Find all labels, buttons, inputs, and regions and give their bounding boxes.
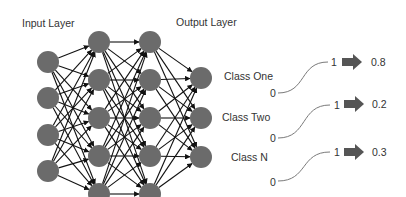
- class-n-label: Class N: [231, 151, 268, 163]
- right-arrow-icon: [344, 144, 364, 160]
- class-n-low-value: 0: [270, 176, 276, 188]
- right-arrow-icon: [344, 96, 364, 112]
- connection-arrow: [53, 90, 93, 162]
- connection-arrow: [53, 72, 94, 147]
- class-n-probability: 0.3: [372, 146, 387, 158]
- input-node: [37, 51, 59, 73]
- hidden-2-node: [139, 69, 161, 91]
- connection-arrow: [58, 66, 88, 77]
- connection-arrow: [161, 78, 190, 79]
- class-one-probability: 0.8: [371, 56, 386, 68]
- input-node: [37, 124, 59, 146]
- input-node: [37, 160, 59, 182]
- hidden-2-node: [139, 145, 161, 167]
- connection-arrow: [58, 46, 89, 58]
- class-two-low-value: 0: [270, 132, 276, 144]
- hidden-1-node: [88, 69, 110, 91]
- output-node: [190, 107, 212, 129]
- connection-arrow: [55, 143, 92, 185]
- connection-edges: [52, 42, 197, 194]
- class-two-label: Class Two: [222, 111, 270, 123]
- class-one-low-value: 0: [270, 87, 276, 99]
- sigmoid-curve: [278, 152, 330, 181]
- output-node: [190, 67, 212, 89]
- connection-arrow: [159, 163, 192, 187]
- class-n-high-value: 1: [334, 146, 340, 158]
- input-layer-title: Input Layer: [22, 17, 75, 29]
- hidden-1-node: [88, 31, 110, 53]
- class-one-high-value: 1: [331, 56, 337, 68]
- input-node: [37, 87, 59, 109]
- hidden-2-node: [139, 31, 161, 53]
- output-node: [190, 146, 212, 168]
- sigmoid-curves: [278, 54, 364, 181]
- class-two-high-value: 1: [334, 99, 340, 111]
- hidden-1-node: [88, 145, 110, 167]
- output-layer-title: Output Layer: [176, 16, 237, 28]
- sigmoid-curve: [278, 62, 328, 93]
- hidden-2-node: [139, 107, 161, 129]
- connection-arrow: [55, 50, 91, 90]
- class-two-probability: 0.2: [372, 98, 387, 110]
- neural-network-diagram: [0, 0, 406, 197]
- connection-arrow: [159, 48, 192, 71]
- hidden-2-node: [139, 183, 161, 197]
- connection-arrow: [53, 52, 93, 126]
- connection-arrow: [56, 126, 92, 163]
- sigmoid-curve: [278, 105, 330, 138]
- hidden-1-node: [88, 107, 110, 129]
- class-one-label: Class One: [224, 70, 273, 82]
- connection-arrow: [154, 88, 196, 184]
- right-arrow-icon: [342, 54, 362, 70]
